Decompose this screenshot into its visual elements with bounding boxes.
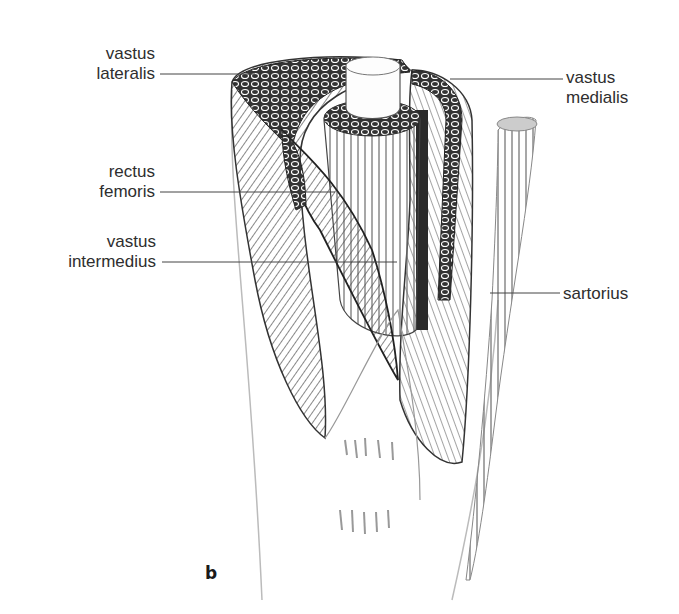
- label-line: medialis: [566, 88, 666, 108]
- label-line: sartorius: [563, 284, 663, 304]
- label-sartorius: sartorius: [563, 284, 663, 304]
- label-line: vastus: [60, 44, 155, 64]
- label-vastus-intermedius: vastus intermedius: [40, 232, 156, 272]
- label-rectus-femoris: rectus femoris: [60, 162, 155, 202]
- panel-label: b: [205, 563, 217, 583]
- sartorius-muscle: [466, 117, 537, 580]
- label-line: vastus: [566, 68, 666, 88]
- label-line: lateralis: [60, 64, 155, 84]
- femur-bone: [346, 57, 400, 119]
- label-line: femoris: [60, 182, 155, 202]
- label-line: rectus: [60, 162, 155, 182]
- label-line: vastus: [40, 232, 156, 252]
- label-line: intermedius: [40, 252, 156, 272]
- label-vastus-lateralis: vastus lateralis: [60, 44, 155, 84]
- label-vastus-medialis: vastus medialis: [566, 68, 666, 108]
